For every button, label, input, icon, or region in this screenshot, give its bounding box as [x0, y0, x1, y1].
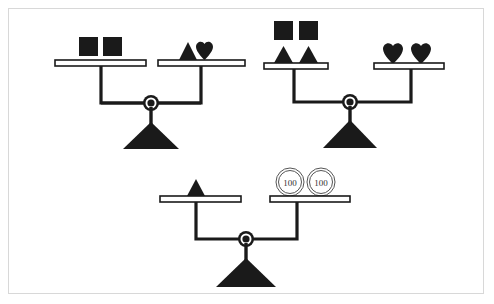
square-shape: [299, 21, 318, 40]
square-shape: [79, 37, 98, 56]
triangle-shape: [274, 46, 293, 63]
triangle-shape: [187, 179, 205, 196]
heart-shape: [196, 42, 213, 60]
scale-1-left-pan: [55, 60, 146, 66]
scale-3-right-pan-items: 100 100: [276, 168, 335, 196]
scale-2-right-pan-items: [383, 43, 431, 64]
balance-scale-3: 100 100: [160, 165, 350, 290]
scale-3-left-pan: [160, 196, 241, 202]
scale-1-right-pan: [158, 60, 245, 66]
triangle-shape: [179, 42, 197, 60]
scale-2-base: [323, 120, 377, 148]
coin-100-second: 100: [307, 168, 335, 196]
scale-2-right-pan: [374, 63, 444, 69]
balance-scale-2: [264, 15, 444, 150]
scale-1-base: [123, 122, 179, 149]
scale-2-left-pan-items: [274, 21, 318, 63]
square-shape: [103, 37, 122, 56]
scale-3-base: [216, 258, 276, 287]
triangle-shape: [299, 46, 318, 63]
diagram-canvas: 100 100: [0, 0, 494, 304]
scale-2-left-pan: [264, 63, 328, 69]
scale-3-right-pan: [270, 196, 350, 202]
coin-label: 100: [314, 178, 328, 188]
coin-100-first: 100: [276, 168, 304, 196]
heart-shape: [383, 43, 403, 64]
square-shape: [274, 21, 293, 40]
heart-shape: [411, 43, 431, 64]
balance-scale-1: [55, 25, 245, 150]
scale-3-left-pan-items: [187, 179, 205, 196]
scale-1-right-pan-items: [179, 42, 213, 60]
coin-label: 100: [283, 178, 297, 188]
scale-1-left-pan-items: [79, 37, 122, 56]
